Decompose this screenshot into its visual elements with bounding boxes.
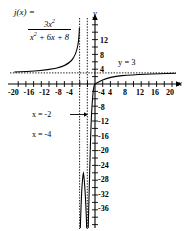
y-tick-label: -4 (98, 88, 105, 97)
asymptote-callout-arrow (70, 112, 88, 116)
x-tick-label: -8 (55, 88, 62, 97)
x-tick-label: -4 (66, 88, 73, 97)
y-axis-letter: y (93, 8, 97, 18)
function-label: j(x) = 3x2 x2 + 6x + 8 (14, 7, 71, 42)
x-tick-label: 20 (166, 88, 174, 97)
function-name: j(x) = (14, 7, 71, 17)
y-tick-label: -32 (98, 190, 109, 199)
horizontal-asymptote-label: y = 3 (118, 57, 136, 67)
x-tick-label: 8 (123, 88, 127, 97)
x-tick-label: -16 (24, 88, 35, 97)
fraction-denominator: x2 + 6x + 8 (28, 30, 71, 42)
vertical-asymptote-label-x-minus-2: x = -2 (32, 110, 51, 119)
function-fraction: 3x2 x2 + 6x + 8 (28, 18, 71, 42)
x-tick-label: 12 (136, 88, 144, 97)
x-tick-label: 4 (108, 88, 112, 97)
x-tick-label: -12 (39, 88, 50, 97)
y-tick-label: 8 (100, 51, 104, 60)
y-tick-label: 12 (100, 36, 108, 45)
fraction-numerator: 3x2 (28, 18, 71, 29)
y-tick-label: -28 (98, 175, 109, 184)
y-tick-label: -20 (98, 146, 109, 155)
y-tick-label: -24 (98, 161, 109, 170)
y-tick-label: -36 (98, 204, 109, 213)
y-tick-label: -16 (98, 132, 109, 141)
x-tick-label: 16 (151, 88, 159, 97)
y-tick-label: -12 (98, 117, 109, 126)
y-tick-label: -8 (98, 103, 105, 112)
rational-function-figure: j(x) = 3x2 x2 + 6x + 8 y x y = 3 x = -2 … (0, 0, 188, 231)
x-tick-label: -20 (8, 88, 19, 97)
x-axis-letter: x (178, 78, 182, 88)
y-tick-label: 4 (100, 65, 104, 74)
vertical-asymptote-label-x-minus-4: x = -4 (32, 130, 51, 139)
curve-middle-branch (80, 173, 86, 228)
